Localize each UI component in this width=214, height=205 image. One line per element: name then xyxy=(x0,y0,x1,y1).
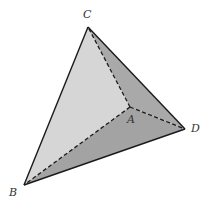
tetrahedron-diagram: C A D B xyxy=(0,0,214,205)
vertex-label-d: D xyxy=(190,122,200,135)
vertex-label-a: A xyxy=(126,113,135,126)
vertex-label-b: B xyxy=(8,186,17,199)
vertex-label-c: C xyxy=(83,8,92,21)
